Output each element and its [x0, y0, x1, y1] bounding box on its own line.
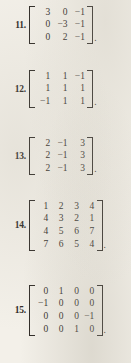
matrix-cell: 0 — [35, 310, 50, 323]
matrix-grid: 1 1 −1 1 1 1 −1 1 1 — [35, 70, 87, 108]
matrix-cell: 0 — [35, 31, 52, 44]
matrix-cell: 0 — [35, 19, 52, 32]
problem-number: 11. — [0, 20, 29, 30]
matrix-14: 1 2 3 4 4 3 2 1 4 5 6 7 7 — [29, 200, 103, 251]
matrix-cell: 2 — [66, 213, 81, 226]
matrix-grid: 1 2 3 4 4 3 2 1 4 5 6 7 7 — [35, 200, 97, 251]
matrix-grid: 2 −1 3 2 −1 3 2 −1 3 — [35, 137, 87, 175]
matrix-cell: 0 — [66, 285, 81, 298]
matrix-12: 1 1 −1 1 1 1 −1 1 1 — [29, 70, 93, 108]
matrix-cell: 7 — [35, 238, 50, 251]
matrix-cell: 4 — [35, 213, 50, 226]
matrix-grid: 3 0 −1 0 −3 −1 0 2 −1 — [35, 6, 87, 44]
matrix-cell: 1 — [52, 83, 69, 96]
matrix-cell: 2 — [35, 150, 52, 163]
matrix-row: 3 0 −1 — [35, 6, 87, 19]
matrix-cell: 1 — [66, 323, 81, 336]
matrix-cell: 1 — [35, 200, 50, 213]
matrix-cell: 6 — [66, 225, 81, 238]
matrix-cell: −1 — [52, 150, 69, 163]
matrix-cell: 0 — [35, 323, 50, 336]
matrix-cell: 1 — [52, 70, 69, 83]
matrix-cell: 3 — [50, 213, 65, 226]
problem-item-12: 12. 1 1 −1 1 1 1 −1 1 1 — [0, 70, 97, 108]
matrix-cell: 3 — [70, 150, 87, 163]
trailing-period: . — [103, 325, 106, 336]
trailing-period: . — [93, 97, 96, 108]
matrix-row: −1 1 1 — [35, 95, 87, 108]
matrix-cell: 4 — [81, 238, 96, 251]
matrix-cell: −1 — [70, 31, 87, 44]
matrix-cell: −1 — [35, 95, 52, 108]
matrix-right-bracket — [87, 6, 93, 44]
problem-number: 15. — [0, 305, 29, 315]
matrix-row: 0 2 −1 — [35, 31, 87, 44]
matrix-cell: −1 — [52, 162, 69, 175]
matrix-cell: 4 — [81, 200, 96, 213]
matrix-cell: 5 — [66, 238, 81, 251]
trailing-period: . — [103, 240, 106, 251]
matrix-row: 0 −3 −1 — [35, 19, 87, 32]
problem-item-11: 11. 3 0 −1 0 −3 −1 0 2 −1 — [0, 6, 97, 44]
matrix-cell: 2 — [35, 137, 52, 150]
matrix-cell: 3 — [66, 200, 81, 213]
matrix-cell: 7 — [81, 225, 96, 238]
matrix-row: 4 3 2 1 — [35, 213, 97, 226]
matrix-cell: 1 — [35, 83, 52, 96]
matrix-row: 2 −1 3 — [35, 137, 87, 150]
problem-number: 14. — [0, 220, 29, 230]
matrix-cell: 0 — [66, 298, 81, 311]
problem-item-14: 14. 1 2 3 4 4 3 2 1 4 5 6 — [0, 200, 106, 251]
matrix-right-bracket — [97, 285, 103, 336]
trailing-period: . — [93, 164, 96, 175]
matrix-cell: 4 — [35, 225, 50, 238]
matrix-cell: 3 — [70, 162, 87, 175]
matrix-row: 1 1 1 — [35, 83, 87, 96]
matrix-row: 7 6 5 4 — [35, 238, 97, 251]
trailing-period: . — [93, 33, 96, 44]
matrix-13: 2 −1 3 2 −1 3 2 −1 3 — [29, 137, 93, 175]
matrix-cell: 0 — [81, 298, 96, 311]
matrix-cell: −1 — [70, 70, 87, 83]
problem-item-15: 15. 0 1 0 0 −1 0 0 0 0 0 0 — [0, 285, 106, 336]
matrix-row: 2 −1 3 — [35, 162, 87, 175]
matrix-cell: 2 — [35, 162, 52, 175]
matrix-cell: 1 — [70, 83, 87, 96]
matrix-cell: −1 — [70, 19, 87, 32]
matrix-row: 0 0 1 0 — [35, 323, 97, 336]
matrix-cell: 1 — [52, 95, 69, 108]
matrix-row: 0 0 0 −1 — [35, 310, 97, 323]
matrix-cell: −1 — [35, 298, 50, 311]
matrix-cell: 3 — [70, 137, 87, 150]
matrix-cell: 1 — [70, 95, 87, 108]
matrix-cell: 2 — [50, 200, 65, 213]
matrix-11: 3 0 −1 0 −3 −1 0 2 −1 — [29, 6, 93, 44]
matrix-cell: 0 — [50, 298, 65, 311]
matrix-cell: 0 — [81, 285, 96, 298]
matrix-cell: 0 — [52, 6, 69, 19]
matrix-cell: 0 — [66, 310, 81, 323]
problem-item-13: 13. 2 −1 3 2 −1 3 2 −1 3 — [0, 137, 97, 175]
matrix-row: 1 1 −1 — [35, 70, 87, 83]
matrix-cell: 0 — [35, 285, 50, 298]
matrix-cell: 1 — [81, 213, 96, 226]
matrix-cell: 0 — [50, 323, 65, 336]
exercise-page: 11. 3 0 −1 0 −3 −1 0 2 −1 — [0, 0, 131, 363]
matrix-right-bracket — [97, 200, 103, 251]
matrix-row: 0 1 0 0 — [35, 285, 97, 298]
matrix-cell: −3 — [52, 19, 69, 32]
matrix-cell: 1 — [50, 285, 65, 298]
matrix-right-bracket — [87, 137, 93, 175]
matrix-cell: 2 — [52, 31, 69, 44]
matrix-right-bracket — [87, 70, 93, 108]
matrix-15: 0 1 0 0 −1 0 0 0 0 0 0 −1 — [29, 285, 103, 336]
matrix-row: 1 2 3 4 — [35, 200, 97, 213]
matrix-cell: 0 — [81, 323, 96, 336]
matrix-cell: 3 — [35, 6, 52, 19]
matrix-row: 2 −1 3 — [35, 150, 87, 163]
matrix-cell: −1 — [52, 137, 69, 150]
matrix-cell: −1 — [70, 6, 87, 19]
matrix-cell: 1 — [35, 70, 52, 83]
matrix-cell: 0 — [50, 310, 65, 323]
problem-number: 12. — [0, 84, 29, 94]
